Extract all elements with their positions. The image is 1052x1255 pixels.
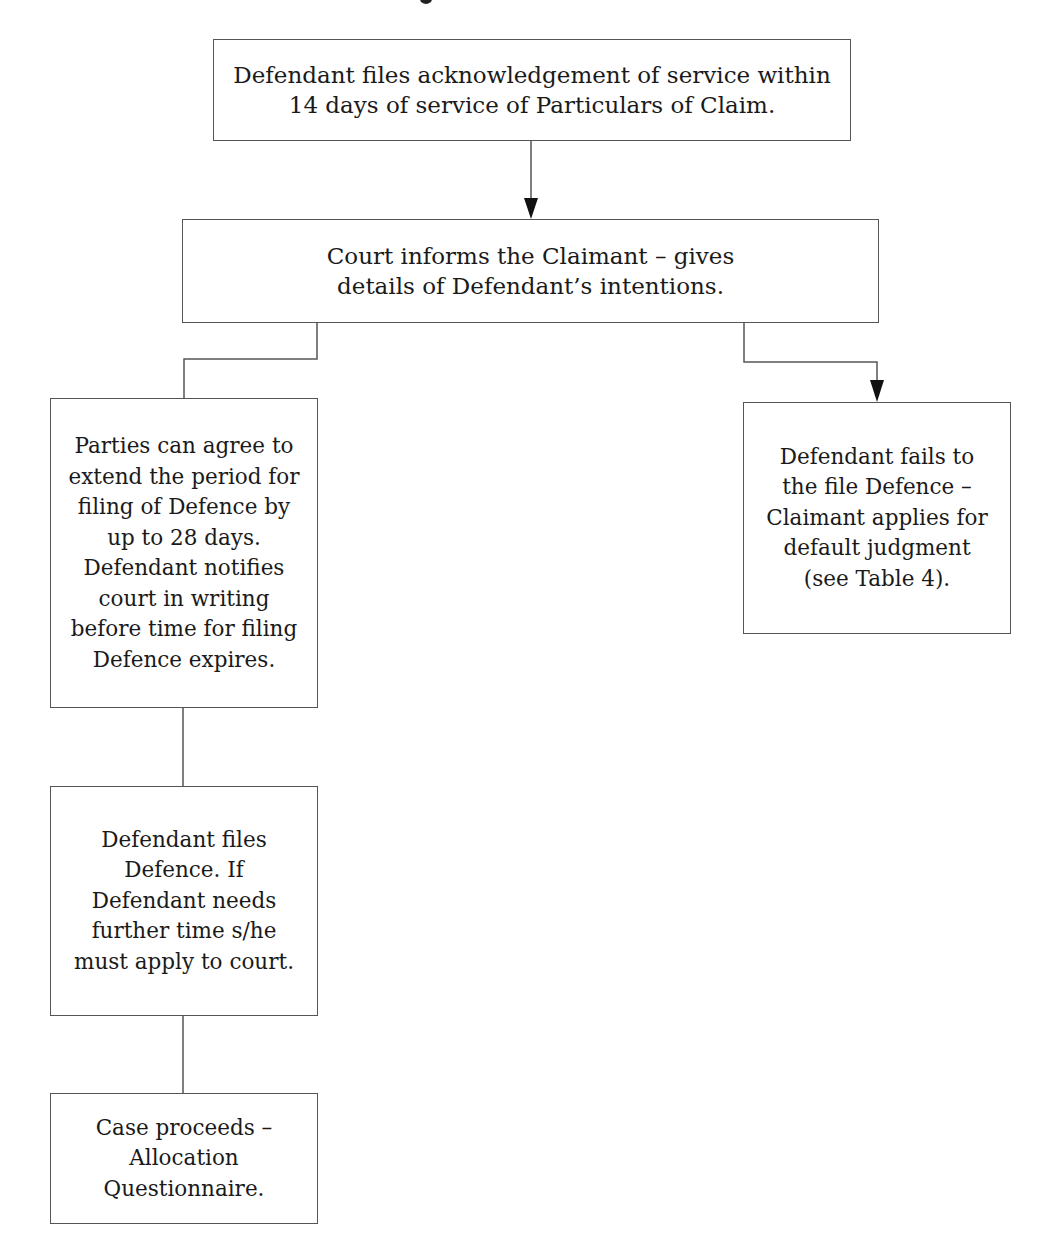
node-fails-to-file-label: Defendant fails to the file Defence – Cl… [766, 442, 988, 595]
flowchart-canvas: Defendant files acknowledgement of servi… [0, 0, 1052, 1255]
node-extend-period: Parties can agree to extend the period f… [50, 398, 318, 708]
node-files-defence: Defendant files Defence. If Defendant ne… [50, 786, 318, 1016]
node-court-informs: Court informs the Claimant – gives detai… [182, 219, 879, 323]
node-case-proceeds: Case proceeds – Allocation Questionnaire… [50, 1093, 318, 1224]
connector-court-to-fails [744, 322, 877, 382]
node-court-informs-label: Court informs the Claimant – gives detai… [293, 241, 768, 301]
arrowhead-down-icon [524, 198, 538, 219]
node-extend-period-label: Parties can agree to extend the period f… [61, 431, 307, 675]
node-case-proceeds-label: Case proceeds – Allocation Questionnaire… [91, 1113, 277, 1205]
node-acknowledgement-label: Defendant files acknowledgement of servi… [228, 60, 836, 120]
node-files-defence-label: Defendant files Defence. If Defendant ne… [73, 825, 295, 978]
node-fails-to-file: Defendant fails to the file Defence – Cl… [743, 402, 1011, 634]
cropped-title-remnant [420, 0, 432, 4]
connector-court-to-extend [184, 322, 317, 398]
node-acknowledgement: Defendant files acknowledgement of servi… [213, 39, 851, 141]
arrowhead-down-icon [870, 380, 884, 402]
